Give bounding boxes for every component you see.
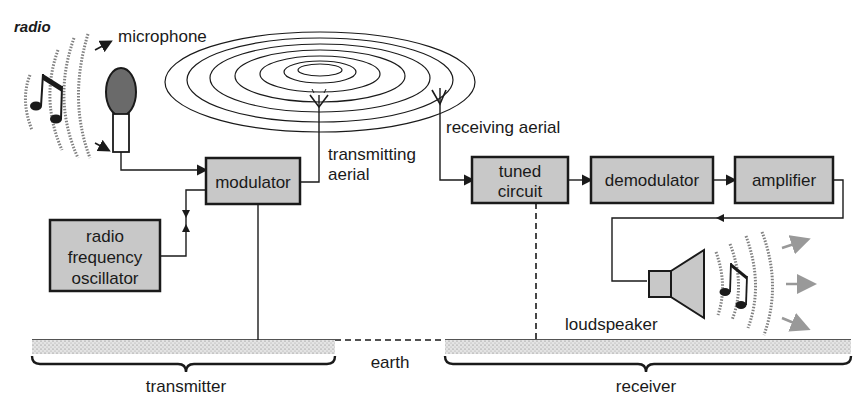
aerial-to-tuned-wire	[440, 104, 472, 180]
speaker-icon	[649, 250, 704, 318]
sound-waves-input	[25, 34, 110, 158]
svg-text:frequency: frequency	[68, 248, 143, 267]
diagram-title: radio	[14, 18, 51, 35]
svg-text:modulator: modulator	[215, 173, 291, 192]
aerial-to-modulator-wire	[300, 107, 319, 182]
svg-text:tuned: tuned	[499, 162, 542, 181]
transmitter-label: transmitter	[146, 377, 227, 396]
svg-text:demodulator: demodulator	[605, 171, 700, 190]
tuned-circuit-block: tuned circuit	[472, 157, 568, 203]
microphone-label: microphone	[118, 27, 207, 46]
music-note-icon-output	[720, 263, 748, 309]
receiver-earth	[445, 340, 851, 354]
transmitting-aerial-label-2: aerial	[328, 165, 370, 184]
earth-label: earth	[371, 353, 410, 372]
transmitter-earth	[32, 340, 335, 354]
music-note-icon	[30, 74, 62, 124]
oscillator-to-modulator-wire	[160, 190, 206, 256]
microphone-icon	[106, 68, 136, 152]
receiver-label: receiver	[616, 377, 677, 396]
svg-text:radio: radio	[86, 227, 124, 246]
receiving-aerial-label: receiving aerial	[446, 118, 560, 137]
svg-text:oscillator: oscillator	[71, 269, 138, 288]
receiver-brace	[445, 356, 851, 372]
transmitting-aerial-label-1: transmitting	[328, 145, 416, 164]
transmitter-brace	[32, 356, 335, 372]
oscillator-block: radio frequency oscillator	[50, 220, 160, 291]
svg-text:amplifier: amplifier	[752, 171, 817, 190]
svg-text:circuit: circuit	[498, 182, 543, 201]
amplifier-block: amplifier	[735, 157, 833, 203]
loudspeaker-label: loudspeaker	[565, 315, 658, 334]
radio-system-diagram: radio microphone	[0, 0, 863, 405]
radio-waves-icon	[165, 32, 475, 132]
mic-to-modulator-wire	[121, 152, 205, 170]
demodulator-block: demodulator	[591, 157, 713, 203]
modulator-block: modulator	[206, 158, 300, 204]
